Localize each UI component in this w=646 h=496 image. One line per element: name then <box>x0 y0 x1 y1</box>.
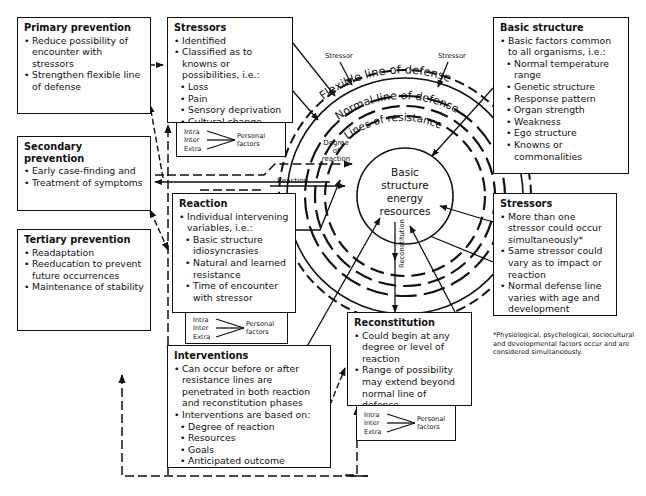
list-item: Organ strength <box>506 104 622 116</box>
reconstitution-box: Reconstitution Could begin at any degree… <box>347 312 472 406</box>
list-item: Maintenance of stability <box>24 281 144 293</box>
list-item: Reduce possibility of encounter with str… <box>24 35 144 70</box>
converge-arrows-icon <box>214 317 246 339</box>
personal-factors-label: Personal factors <box>246 320 274 337</box>
list-item: Pain <box>180 93 286 105</box>
secondary-prevention-title: Secondary prevention <box>24 141 144 164</box>
list-item: Sensory deprivation <box>180 104 286 116</box>
list-item: Resources <box>180 432 324 444</box>
personal-factors-label: Personal factors <box>237 132 265 149</box>
list-item: Strengthen flexible line of defense <box>24 69 144 92</box>
stressors-right-box: Stressors More than one stressor could o… <box>493 193 617 316</box>
basic-structure-sublist: Normal temperature range Genetic structu… <box>500 58 622 162</box>
list-item: Basic factors common to all organisms, i… <box>500 35 622 58</box>
list-item: Basic structure idiosyncrasies <box>185 234 289 257</box>
interventions-list: Can occur before or after resistance lin… <box>174 363 324 421</box>
list-item: Early case-finding and <box>24 165 144 177</box>
basic-structure-title: Basic structure <box>500 22 622 34</box>
secondary-prevention-list: Early case-finding and Treatment of symp… <box>24 165 144 188</box>
reaction-sublist: Basic structure idiosyncrasies Natural a… <box>179 234 289 304</box>
stressors-right-list: More than one stressor could occur simul… <box>500 211 610 315</box>
interventions-sublist: Degree of reaction Resources Goals Antic… <box>174 421 324 467</box>
stressor-label-left: Stressor <box>325 52 353 60</box>
list-item: Same stressor could vary as to impact or… <box>500 245 610 280</box>
personal-factors-stressors: Intra Inter Extra Personal factors <box>176 123 286 157</box>
list-item: Readaptation <box>24 247 144 259</box>
list-item: Individual intervening variables, i.e.: <box>179 211 289 234</box>
svg-text:of: of <box>333 147 340 155</box>
list-item: Could begin at any degree or level of re… <box>354 330 465 365</box>
svg-text:resources: resources <box>380 205 431 217</box>
list-item: Response pattern <box>506 93 622 105</box>
list-item: Natural and learned resistance <box>185 257 289 280</box>
list-item: Weakness <box>506 116 622 128</box>
stressors-top-title: Stressors <box>174 22 286 34</box>
list-item: Loss <box>180 81 286 93</box>
reconstitution-arrow-label: Reconstitution <box>398 219 406 268</box>
svg-text:Degree: Degree <box>323 139 348 147</box>
svg-text:structure: structure <box>381 179 429 191</box>
personal-factors-reaction: Intra Inter Extra Personal factors <box>185 313 288 344</box>
list-item: Identified <box>174 35 286 47</box>
list-item: More than one stressor could occur simul… <box>500 211 610 246</box>
tertiary-prevention-box: Tertiary prevention Readaptation Reeduca… <box>17 229 151 331</box>
svg-text:energy: energy <box>387 192 424 204</box>
reaction-title: Reaction <box>179 198 289 210</box>
list-item: Normal defense line varies with age and … <box>500 280 610 315</box>
reaction-list: Individual intervening variables, i.e.: <box>179 211 289 234</box>
tertiary-prevention-title: Tertiary prevention <box>24 234 144 246</box>
primary-prevention-box: Primary prevention Reduce possibility of… <box>17 17 151 114</box>
list-item: Reeducation to prevent future occurrence… <box>24 258 144 281</box>
list-item: Treatment of symptoms <box>24 177 144 189</box>
list-item: Interventions are based on: <box>174 409 324 421</box>
basic-structure-list: Basic factors common to all organisms, i… <box>500 35 622 58</box>
primary-prevention-title: Primary prevention <box>24 22 144 34</box>
list-item: Ego structure <box>506 127 622 139</box>
stressors-top-list: Identified Classified as to knowns or po… <box>174 35 286 81</box>
list-item: Time of encounter with stressor <box>185 280 289 303</box>
stressor-label-right: Stressor <box>438 52 466 60</box>
list-item: Can occur before or after resistance lin… <box>174 363 324 409</box>
list-item: Anticipated outcome <box>180 455 324 467</box>
interventions-box: Interventions Can occur before or after … <box>167 345 331 468</box>
stressors-right-title: Stressors <box>500 198 610 210</box>
interventions-title: Interventions <box>174 350 324 362</box>
converge-arrows-icon <box>205 129 237 151</box>
list-item: Knowns or commonalities <box>506 139 622 162</box>
reconstitution-list: Could begin at any degree or level of re… <box>354 330 465 411</box>
list-item: Degree of reaction <box>180 421 324 433</box>
personal-factors-reconstitution: Intra Inter Extra Personal factors <box>356 406 456 441</box>
footnote: *Physiological, psychological, sociocult… <box>493 331 643 357</box>
stressors-top-box: Stressors Identified Classified as to kn… <box>167 17 293 123</box>
primary-prevention-list: Reduce possibility of encounter with str… <box>24 35 144 93</box>
reconstitution-title: Reconstitution <box>354 317 465 329</box>
personal-factors-levels: Intra Inter Extra <box>193 316 210 341</box>
list-item: Goals <box>180 444 324 456</box>
secondary-prevention-box: Secondary prevention Early case-finding … <box>17 136 151 211</box>
list-item: Classified as to knowns or possibilities… <box>174 46 286 81</box>
personal-factors-levels: Intra Inter Extra <box>184 128 201 153</box>
list-item: Normal temperature range <box>506 58 622 81</box>
resistance-lines-label: Lines of resistance <box>341 111 444 141</box>
reaction-arrow-label: Reaction <box>277 176 308 185</box>
svg-text:reaction: reaction <box>322 155 351 163</box>
basic-structure-box: Basic structure Basic factors common to … <box>493 17 629 174</box>
stressors-top-sublist: Loss Pain Sensory deprivation Cultural c… <box>174 81 286 127</box>
list-item: Range of possibility may extend beyond n… <box>354 364 465 410</box>
personal-factors-label: Personal factors <box>417 415 445 432</box>
tertiary-prevention-list: Readaptation Reeducation to prevent futu… <box>24 247 144 293</box>
personal-factors-levels: Intra Inter Extra <box>364 411 381 436</box>
svg-text:Basic: Basic <box>391 166 419 178</box>
converge-arrows-icon <box>385 412 417 434</box>
reaction-box: Reaction Individual intervening variable… <box>172 193 296 313</box>
list-item: Genetic structure <box>506 81 622 93</box>
